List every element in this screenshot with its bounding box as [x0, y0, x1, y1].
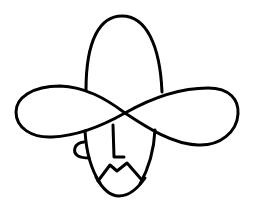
hat-crown	[86, 16, 162, 92]
face-right-side	[140, 130, 155, 184]
hat-brim-right-lobe	[125, 88, 238, 145]
chin	[96, 177, 145, 196]
hat-brim-left-lobe	[16, 86, 125, 137]
nose-l	[113, 125, 124, 157]
cowboy-illustration	[0, 0, 260, 210]
mustache	[98, 163, 141, 181]
cowboy-drawing: Cowboy line drawing	[0, 0, 260, 210]
